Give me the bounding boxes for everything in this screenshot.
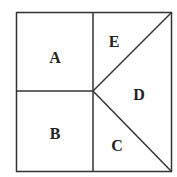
partitioned-square-diagram: A B C D E: [0, 0, 177, 177]
region-label-b: B: [50, 125, 61, 142]
region-label-e: E: [109, 33, 120, 50]
region-label-d: D: [133, 86, 145, 103]
diagonal-upper: [93, 13, 172, 92]
region-label-c: C: [111, 137, 123, 154]
region-label-a: A: [49, 49, 61, 66]
diagonal-lower: [93, 91, 172, 172]
